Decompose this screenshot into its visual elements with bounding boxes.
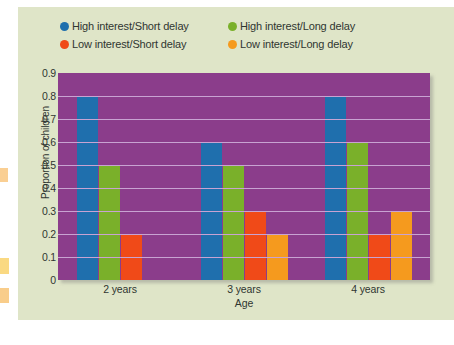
y-tick-label: 0 xyxy=(50,274,56,286)
legend-swatch-icon-3 xyxy=(228,40,237,49)
legend-swatch-icon-1 xyxy=(228,22,237,31)
bar xyxy=(245,211,266,280)
y-tick-label: 0.7 xyxy=(42,113,56,125)
y-tick-label: 0.6 xyxy=(42,136,56,148)
y-tick-label: 0.4 xyxy=(42,182,56,194)
gridline xyxy=(58,211,430,212)
legend-swatch-icon-2 xyxy=(60,40,69,49)
chart-legend: High interest/Short delay High interest/… xyxy=(60,17,400,53)
legend-item-high-interest-long-delay: High interest/Long delay xyxy=(228,20,355,32)
y-tick-label: 0.5 xyxy=(42,159,56,171)
bar xyxy=(99,165,120,280)
legend-swatch-icon-0 xyxy=(60,22,69,31)
x-tick-label: 2 years xyxy=(58,283,182,295)
y-tick-label: 0.1 xyxy=(42,251,56,263)
bar-group xyxy=(306,73,430,280)
gridline xyxy=(58,165,430,166)
plot-area xyxy=(58,73,430,280)
gridline xyxy=(58,234,430,235)
gridline xyxy=(58,188,430,189)
legend-item-high-interest-short-delay: High interest/Short delay xyxy=(60,20,228,32)
legend-label-2: Low interest/Short delay xyxy=(72,38,186,50)
x-tick-label: 3 years xyxy=(182,283,306,295)
chart-figure: High interest/Short delay High interest/… xyxy=(18,7,454,320)
gridline xyxy=(58,119,430,120)
x-tick-label: 4 years xyxy=(306,283,430,295)
legend-label-0: High interest/Short delay xyxy=(72,20,189,32)
bar xyxy=(391,211,412,280)
bar-group xyxy=(58,73,182,280)
legend-label-1: High interest/Long delay xyxy=(240,20,355,32)
y-tick-label: 0.3 xyxy=(42,205,56,217)
bar-group xyxy=(182,73,306,280)
x-axis-title: Age xyxy=(58,297,430,309)
legend-item-low-interest-long-delay: Low interest/Long delay xyxy=(228,38,353,50)
y-axis-ticks: 0.90.80.70.60.50.40.30.20.10 xyxy=(30,73,56,280)
legend-row-1: High interest/Short delay High interest/… xyxy=(60,17,400,35)
bar-groups xyxy=(58,73,430,280)
y-tick-label: 0.9 xyxy=(42,67,56,79)
gridline xyxy=(58,257,430,258)
x-axis-tick-labels: 2 years3 years4 years xyxy=(58,283,430,295)
legend-row-2: Low interest/Short delay Low interest/Lo… xyxy=(60,35,400,53)
page-bleed-artifact-3 xyxy=(0,288,9,303)
y-tick-label: 0.2 xyxy=(42,228,56,240)
y-tick-label: 0.8 xyxy=(42,90,56,102)
legend-label-3: Low interest/Long delay xyxy=(240,38,353,50)
chart-plot-wrapper: Proportion of children 0.90.80.70.60.50.… xyxy=(18,59,454,320)
page-bleed-artifact-1 xyxy=(0,168,8,182)
legend-item-low-interest-short-delay: Low interest/Short delay xyxy=(60,38,228,50)
bar xyxy=(223,165,244,280)
gridline xyxy=(58,142,430,143)
page-bleed-artifact-2 xyxy=(0,258,9,274)
gridline xyxy=(58,96,430,97)
